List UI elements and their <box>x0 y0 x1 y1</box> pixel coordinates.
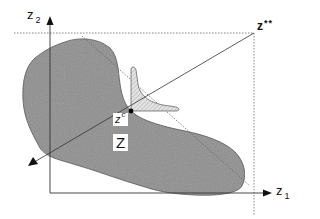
compromise-point-label-marker: c <box>122 110 126 119</box>
compromise-point-label: zc <box>113 113 128 126</box>
ideal-point-label-base: z <box>257 19 263 33</box>
ideal-point-label-marker: ** <box>264 18 273 28</box>
region-label: Z <box>113 134 128 151</box>
z1-axis-label-subscript: 1 <box>285 191 290 201</box>
compromise-point <box>129 109 134 114</box>
compromise-point-label-base: z <box>115 113 121 125</box>
ideal-point-label: z** <box>257 20 273 32</box>
z2-axis-label-subscript: 2 <box>36 15 41 25</box>
z1-axis-arrow-icon <box>263 190 272 197</box>
z2-axis-arrow-icon <box>47 16 54 25</box>
dominance-cone <box>131 67 179 111</box>
feasible-region <box>23 39 245 195</box>
z1-axis-label: z1 <box>276 184 290 197</box>
z2-axis-label: z2 <box>27 8 41 21</box>
z1-axis-label-base: z <box>276 183 283 198</box>
z2-axis-label-base: z <box>27 7 34 22</box>
direction-arrow-icon <box>28 157 38 166</box>
